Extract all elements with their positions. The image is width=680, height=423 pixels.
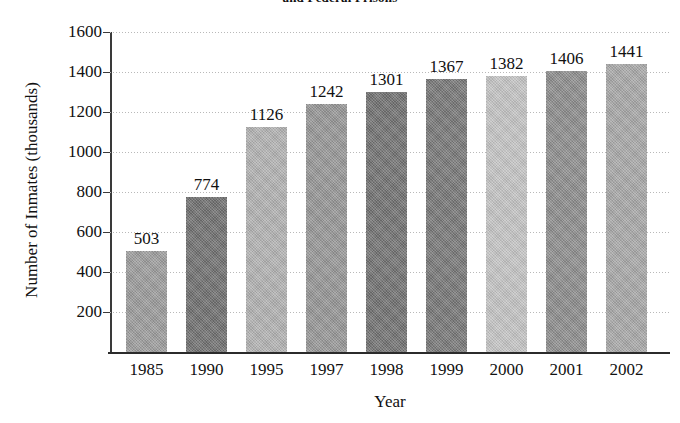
y-axis-tick-label: 200: [34, 303, 102, 320]
bar: [246, 127, 287, 352]
bar-value-label: 1126: [232, 106, 302, 124]
bar-chart-figure: and Federal Prisons Number of Inmates (t…: [0, 0, 680, 423]
bar: [306, 104, 347, 352]
x-axis-line: [108, 352, 670, 354]
y-axis-tick-label: 600: [34, 223, 102, 240]
y-axis-tick-mark: [103, 232, 110, 234]
y-axis-tick-mark: [103, 152, 110, 154]
y-axis-tick-label: 1000: [34, 143, 102, 160]
chart-title: and Federal Prisons: [0, 0, 680, 5]
y-axis-tick-mark: [103, 272, 110, 274]
x-axis-title: Year: [110, 392, 670, 412]
y-axis-tick-label: 1600: [34, 23, 102, 40]
y-axis-tick-label: 400: [34, 263, 102, 280]
y-axis-tick-label: 1400: [34, 63, 102, 80]
bar: [606, 64, 647, 352]
y-axis-tick-mark: [103, 112, 110, 114]
bar: [546, 71, 587, 352]
bar: [486, 76, 527, 352]
y-axis-tick-label: 800: [34, 183, 102, 200]
bar: [126, 251, 167, 352]
x-axis-tick-label: 2002: [592, 361, 662, 379]
gridline: [110, 32, 670, 33]
y-axis-tick-label: 1200: [34, 103, 102, 120]
bar-value-label: 503: [112, 230, 182, 248]
bar: [426, 79, 467, 352]
bar: [366, 92, 407, 352]
bar: [186, 197, 227, 352]
y-axis-tick-mark: [103, 32, 110, 34]
y-axis-tick-mark: [103, 72, 110, 74]
bar-value-label: 1441: [592, 43, 662, 61]
y-axis-tick-mark: [103, 192, 110, 194]
bar-value-label: 774: [172, 176, 242, 194]
y-axis-tick-mark: [103, 312, 110, 314]
